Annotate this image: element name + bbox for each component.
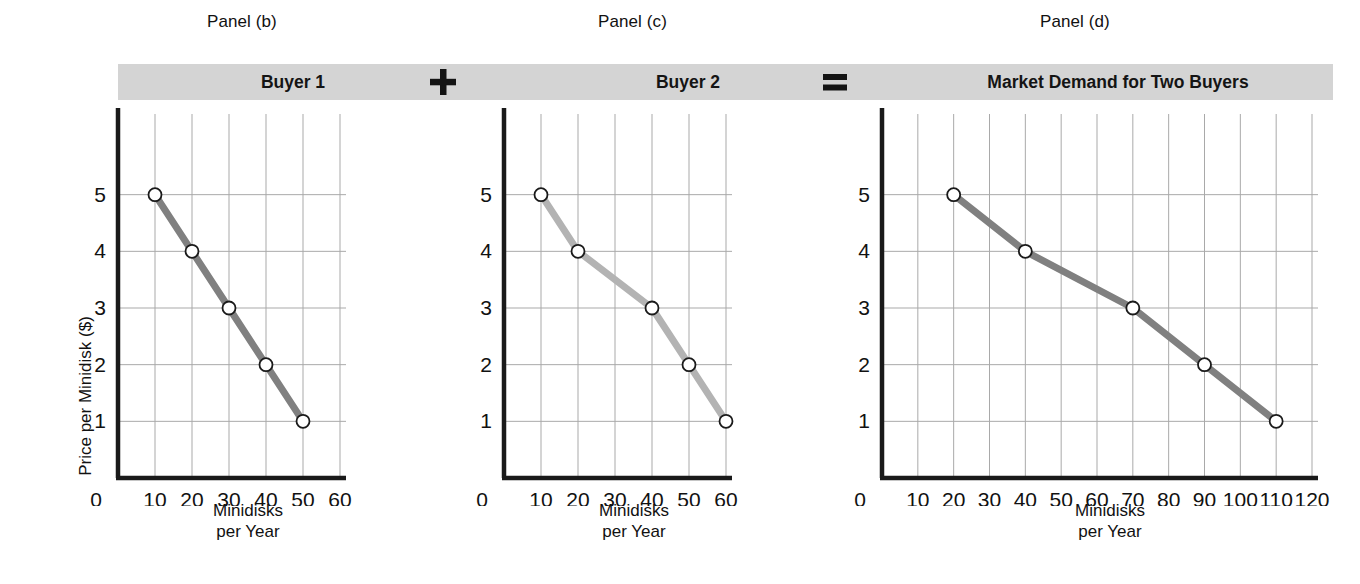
- y-axis-tick-label: 2: [480, 353, 492, 376]
- x-axis-title-line1: Minidisks: [524, 500, 744, 521]
- data-point-marker: [572, 245, 585, 258]
- y-axis-tick-label: 5: [94, 183, 106, 206]
- x-axis-title-line1: Minidisks: [138, 500, 358, 521]
- data-point-marker: [186, 245, 199, 258]
- plus-sign-icon: [423, 64, 463, 100]
- chart-panel-b: 123450102030405060 Price per Minidisk ($…: [40, 106, 360, 506]
- x-axis-tick-label: 30: [978, 488, 1001, 506]
- data-point-marker: [297, 415, 310, 428]
- panel-caption-c: Panel (c): [598, 12, 667, 32]
- data-point-marker: [223, 302, 236, 315]
- y-axis-tick-label: 1: [94, 409, 106, 432]
- y-axis-tick-label: 5: [480, 183, 492, 206]
- panel-caption-b: Panel (b): [207, 12, 277, 32]
- y-axis-tick-label: 3: [858, 296, 870, 319]
- data-point-marker: [720, 415, 733, 428]
- y-axis-tick-label: 2: [858, 353, 870, 376]
- x-axis-title-c: Minidisks per Year: [524, 500, 744, 542]
- x-axis-title-line2: per Year: [138, 521, 358, 542]
- y-axis-tick-label: 1: [858, 409, 870, 432]
- chart-panel-d: 123450102030405060708090100110120: [840, 106, 1340, 506]
- x-axis-tick-label: 20: [942, 488, 965, 506]
- y-axis-tick-label: 4: [480, 239, 492, 262]
- x-axis-title-d: Minidisks per Year: [1000, 500, 1220, 542]
- equals-sign-icon: [815, 64, 855, 100]
- x-axis-title-line2: per Year: [524, 521, 744, 542]
- x-axis-tick-label: 0: [476, 488, 488, 506]
- data-point-marker: [683, 358, 696, 371]
- data-point-marker: [149, 188, 162, 201]
- chart-panel-c: 123450102030405060: [426, 106, 746, 506]
- x-axis-tick-label: 120: [1294, 488, 1329, 506]
- data-point-marker: [947, 188, 960, 201]
- data-point-marker: [646, 302, 659, 315]
- x-axis-tick-label: 110: [1259, 488, 1292, 506]
- y-axis-tick-label: 5: [858, 183, 870, 206]
- x-axis-title-line1: Minidisks: [1000, 500, 1220, 521]
- data-point-marker: [535, 188, 548, 201]
- panel-header-banner: Buyer 1 Buyer 2 Market Demand for Two Bu…: [118, 64, 1333, 100]
- data-point-marker: [1270, 415, 1283, 428]
- x-axis-tick-label: 0: [854, 488, 866, 506]
- y-axis-tick-label: 3: [94, 296, 106, 319]
- data-point-marker: [1198, 358, 1211, 371]
- data-point-marker: [1019, 245, 1032, 258]
- demand-curve-figure: Panel (b) Panel (c) Panel (d) Buyer 1 Bu…: [0, 0, 1360, 584]
- y-axis-title: Price per Minidisk ($): [76, 286, 96, 506]
- banner-label-market-demand: Market Demand for Two Buyers: [908, 64, 1328, 100]
- x-axis-tick-label: 100: [1223, 488, 1258, 506]
- y-axis-tick-label: 4: [858, 239, 870, 262]
- y-axis-tick-label: 3: [480, 296, 492, 319]
- chart-svg-d: 123450102030405060708090100110120: [840, 106, 1340, 506]
- y-axis-tick-label: 4: [94, 239, 106, 262]
- banner-label-buyer-1: Buyer 1: [178, 64, 408, 100]
- data-point-marker: [260, 358, 273, 371]
- x-axis-tick-label: 10: [906, 488, 929, 506]
- x-axis-title-line2: per Year: [1000, 521, 1220, 542]
- y-axis-tick-label: 1: [480, 409, 492, 432]
- banner-label-buyer-2: Buyer 2: [573, 64, 803, 100]
- panel-caption-d: Panel (d): [1040, 12, 1110, 32]
- y-axis-tick-label: 2: [94, 353, 106, 376]
- data-point-marker: [1126, 302, 1139, 315]
- x-axis-title-b: Minidisks per Year: [138, 500, 358, 542]
- chart-svg-c: 123450102030405060: [426, 106, 746, 506]
